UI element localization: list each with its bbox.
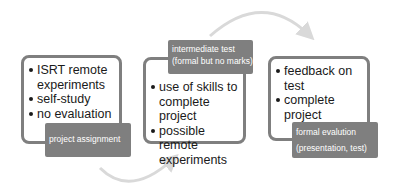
stage-1-label: project assignment (45, 123, 131, 157)
bullet-item: self-study (29, 92, 115, 107)
bullet-item: ISRT remote experiments (29, 63, 127, 92)
bullet-item: complete project (276, 93, 363, 122)
bullet-item: no evaluation (29, 107, 115, 122)
bullet-item: possible remote experiments (151, 124, 239, 168)
bullet-item: feedback on test (276, 64, 363, 93)
arrow-stage2-to-stage3 (210, 12, 308, 36)
stage-1-bullets: ISRT remote experiments self-study no ev… (29, 63, 115, 121)
stage-3-label: formal evalution (presentation, test) (292, 122, 378, 158)
stage-2-label: intermediate test (formal but no marks) (168, 40, 253, 74)
stage-2-bullets: use of skills to complete project possib… (151, 80, 239, 167)
stage-3-bullets: feedback on test complete project (276, 64, 363, 122)
bullet-item: use of skills to complete project (151, 80, 239, 124)
